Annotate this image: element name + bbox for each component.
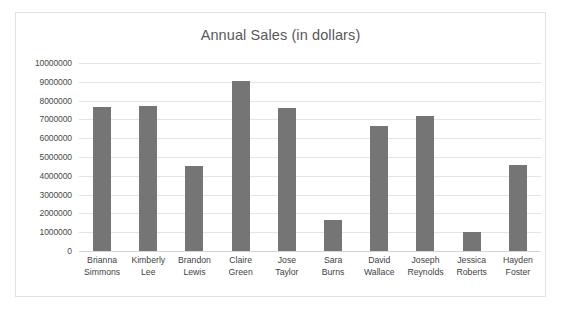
bar-slot (495, 63, 541, 251)
bar-slot (218, 63, 264, 251)
x-axis-label-line: Hayden (495, 255, 541, 267)
y-axis-tick-label: 4000000 (40, 171, 72, 181)
y-axis: 1000000090000008000000700000060000005000… (16, 63, 76, 251)
x-axis-tick-label: ClaireGreen (218, 255, 264, 278)
y-axis-tick-label: 0 (67, 246, 72, 256)
plot-area (79, 63, 541, 251)
bar[interactable] (278, 108, 296, 251)
x-axis-tick-label: HaydenFoster (495, 255, 541, 278)
x-axis-label-line: Brianna (79, 255, 125, 267)
x-axis-label-line: Burns (310, 267, 356, 279)
bar-slot (310, 63, 356, 251)
bar[interactable] (370, 126, 388, 251)
bar-slot (264, 63, 310, 251)
y-axis-tick-label: 1000000 (40, 227, 72, 237)
bar-slot (402, 63, 448, 251)
x-axis: BriannaSimmonsKimberlyLeeBrandonLewisCla… (79, 255, 541, 295)
bar-slot (171, 63, 217, 251)
x-axis-label-line: Lee (125, 267, 171, 279)
x-axis-label-line: Roberts (449, 267, 495, 279)
y-axis-tick-label: 5000000 (40, 152, 72, 162)
x-axis-label-line: Kimberly (125, 255, 171, 267)
x-axis-label-line: Jessica (449, 255, 495, 267)
x-axis-tick-label: JosephReynolds (402, 255, 448, 278)
x-axis-label-line: Foster (495, 267, 541, 279)
y-axis-tick-label: 3000000 (40, 190, 72, 200)
x-axis-label-line: Green (218, 267, 264, 279)
bar-slot (356, 63, 402, 251)
y-axis-tick-label: 10000000 (35, 58, 72, 68)
bar[interactable] (185, 166, 203, 251)
x-axis-tick-label: SaraBurns (310, 255, 356, 278)
chart-container: Annual Sales (in dollars) 10000000900000… (15, 12, 546, 297)
x-axis-tick-label: KimberlyLee (125, 255, 171, 278)
x-axis-tick-label: DavidWallace (356, 255, 402, 278)
bar[interactable] (139, 106, 157, 251)
y-axis-tick-label: 2000000 (40, 208, 72, 218)
y-axis-tick-label: 7000000 (40, 114, 72, 124)
bar-slot (79, 63, 125, 251)
x-axis-label-line: Claire (218, 255, 264, 267)
bar[interactable] (416, 116, 434, 251)
x-axis-tick-label: JessicaRoberts (449, 255, 495, 278)
x-axis-label-line: Brandon (171, 255, 217, 267)
axis-baseline (79, 251, 541, 252)
x-axis-label-line: Joseph (402, 255, 448, 267)
x-axis-label-line: David (356, 255, 402, 267)
y-axis-tick-label: 8000000 (40, 96, 72, 106)
bars-series (79, 63, 541, 251)
x-axis-label-line: Reynolds (402, 267, 448, 279)
x-axis-tick-label: BrandonLewis (171, 255, 217, 278)
bar[interactable] (232, 81, 250, 251)
bar-slot (449, 63, 495, 251)
x-axis-label-line: Sara (310, 255, 356, 267)
bar[interactable] (324, 220, 342, 251)
x-axis-tick-label: BriannaSimmons (79, 255, 125, 278)
x-axis-label-line: Simmons (79, 267, 125, 279)
bar[interactable] (509, 165, 527, 251)
bar[interactable] (463, 232, 481, 251)
x-axis-label-line: Jose (264, 255, 310, 267)
y-axis-tick-label: 9000000 (40, 77, 72, 87)
bar[interactable] (93, 107, 111, 251)
x-axis-tick-label: JoseTaylor (264, 255, 310, 278)
x-axis-label-line: Wallace (356, 267, 402, 279)
y-axis-tick-label: 6000000 (40, 133, 72, 143)
x-axis-label-line: Taylor (264, 267, 310, 279)
x-axis-label-line: Lewis (171, 267, 217, 279)
bar-slot (125, 63, 171, 251)
chart-title: Annual Sales (in dollars) (16, 27, 545, 43)
